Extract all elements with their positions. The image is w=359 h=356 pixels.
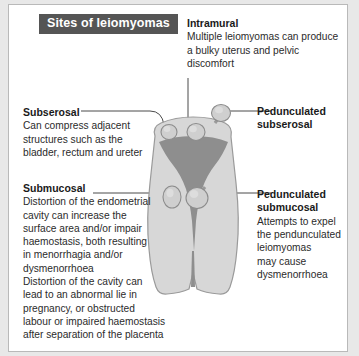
label-subserosal-heading: Subserosal (23, 106, 158, 119)
label-subserosal: Subserosal Can compress adjacent structu… (23, 106, 158, 159)
label-pedunculated-subserosal: Pedunculated subserosal (257, 105, 348, 132)
label-intramural: Intramural Multiple leiomyomas can produ… (187, 17, 347, 70)
pedunculated-subserosal-nodule (212, 105, 231, 122)
label-submucosal-body: Distortion of the endometrial cavity can… (23, 195, 171, 275)
stalk-pedunculated-submucosal (199, 187, 205, 195)
figure-panel: Sites of leiomyomas (8, 4, 348, 352)
page-title: Sites of leiomyomas (47, 16, 170, 30)
label-pedunculated-subserosal-heading: Pedunculated subserosal (257, 105, 348, 132)
label-intramural-heading: Intramural (187, 17, 347, 30)
pedunculated-submucosal-nodule (186, 188, 208, 209)
intramural-nodule (187, 124, 205, 141)
subserosal-nodule (161, 125, 177, 140)
stalk-pedunculated-subserosal (215, 115, 220, 123)
label-submucosal-heading: Submucosal (23, 182, 171, 195)
label-pedunculated-submucosal-body: Attempts to expel the pendunculated leio… (257, 215, 348, 281)
label-intramural-body: Multiple leiomyomas can produce a bulky … (187, 30, 347, 70)
figure-title-banner: Sites of leiomyomas (39, 14, 178, 34)
label-submucosal: Submucosal Distortion of the endometrial… (23, 182, 171, 275)
label-pedunculated-submucosal-heading: Pedunculated submucosal (257, 188, 348, 215)
label-submucosal-second: Distortion of the cavity can lead to an … (23, 275, 171, 341)
label-pedunculated-submucosal: Pedunculated submucosal Attempts to expe… (257, 188, 348, 281)
label-submucosal-second-body: Distortion of the cavity can lead to an … (23, 275, 171, 341)
label-subserosal-body: Can compress adjacent structures such as… (23, 119, 158, 159)
